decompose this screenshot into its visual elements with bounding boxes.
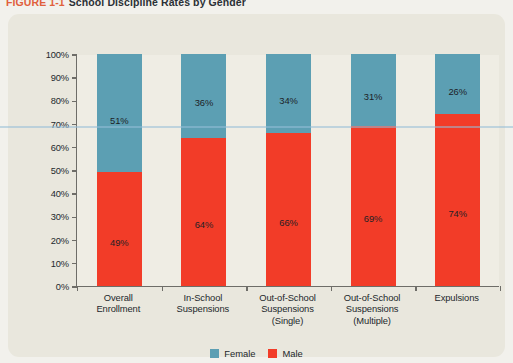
y-axis-tick-label: 10% <box>51 259 69 269</box>
x-axis-tick-mark <box>162 286 163 291</box>
bar-segment-female[interactable]: 31% <box>351 54 396 126</box>
y-axis-tick: 40% <box>51 188 77 200</box>
x-axis-tick-mark <box>500 286 501 291</box>
y-axis-tick-label: 70% <box>51 120 69 130</box>
y-axis-tick-mark <box>72 54 77 55</box>
bar-series-container: 49%51%64%36%66%34%69%31%74%26% <box>77 55 499 286</box>
bar-value-label: 49% <box>110 237 128 248</box>
bar-group[interactable]: 69%31% <box>351 55 396 286</box>
y-axis-tick: 80% <box>51 95 77 107</box>
y-axis-tick: 30% <box>51 211 77 223</box>
bar-value-label: 64% <box>195 219 213 230</box>
bar-value-label: 26% <box>448 86 466 97</box>
chart-panel: 49%51%64%36%66%34%69%31%74%26% 0%10%20%3… <box>8 14 505 357</box>
legend-label: Male <box>282 348 302 359</box>
x-axis-labels: OverallEnrollmentIn-SchoolSuspensionsOut… <box>76 292 499 337</box>
y-axis-tick-mark <box>72 147 77 148</box>
bar-value-label: 74% <box>448 208 466 219</box>
bar-group[interactable]: 49%51% <box>97 55 142 286</box>
x-axis-tick-mark <box>77 286 78 291</box>
x-axis-category-label: Expulsions <box>414 292 499 303</box>
x-axis-tick-mark <box>415 286 416 291</box>
legend-item[interactable]: Female <box>210 348 255 359</box>
bar-segment-female[interactable]: 26% <box>435 54 480 114</box>
y-axis-tick: 20% <box>51 235 77 247</box>
figure-number: FIGURE 1-1 <box>6 0 65 8</box>
y-axis-tick-mark <box>72 101 77 102</box>
y-axis-tick: 70% <box>51 119 77 131</box>
y-axis-tick-mark <box>72 240 77 241</box>
x-axis-tick-mark <box>331 286 332 291</box>
x-axis-category-label: In-SchoolSuspensions <box>161 292 246 315</box>
bar-group[interactable]: 66%34% <box>266 55 311 286</box>
x-axis-category-label: Out-of-SchoolSuspensions(Multiple) <box>330 292 415 326</box>
legend-swatch <box>268 349 277 358</box>
y-axis-tick-mark <box>72 193 77 194</box>
bar-segment-male[interactable]: 64% <box>181 138 226 286</box>
bar-value-label: 36% <box>195 97 213 108</box>
bar-group[interactable]: 74%26% <box>435 55 480 286</box>
bar-segment-male[interactable]: 69% <box>351 126 396 286</box>
y-axis-tick-label: 60% <box>51 143 69 153</box>
y-axis-tick-label: 30% <box>51 212 69 222</box>
legend-label: Female <box>224 348 255 359</box>
x-axis-category-label: OverallEnrollment <box>76 292 161 315</box>
y-axis-tick-mark <box>72 124 77 125</box>
bar-value-label: 34% <box>279 95 297 106</box>
y-axis-tick-mark <box>72 263 77 264</box>
bar-value-label: 66% <box>279 217 297 228</box>
y-axis-tick-mark <box>72 77 77 78</box>
bar-value-label: 31% <box>364 91 382 102</box>
y-axis-tick-label: 90% <box>51 73 69 83</box>
y-axis-tick-label: 80% <box>51 96 69 106</box>
y-axis-tick-label: 0% <box>56 282 69 292</box>
plot-area: 49%51%64%36%66%34%69%31%74%26% 0%10%20%3… <box>76 55 499 287</box>
bar-segment-female[interactable]: 36% <box>181 54 226 138</box>
y-axis-tick: 50% <box>51 165 77 177</box>
y-axis-tick: 90% <box>51 72 77 84</box>
y-axis-tick: 60% <box>51 142 77 154</box>
bar-segment-male[interactable]: 49% <box>97 172 142 286</box>
y-axis-tick-label: 100% <box>46 50 69 60</box>
legend-swatch <box>210 349 219 358</box>
y-axis-tick-label: 20% <box>51 236 69 246</box>
bar-segment-male[interactable]: 66% <box>266 133 311 286</box>
figure-title: School Discipline Rates by Gender <box>69 0 246 8</box>
y-axis-tick: 10% <box>51 258 77 270</box>
bar-segment-female[interactable]: 34% <box>266 54 311 133</box>
y-axis-tick-mark <box>72 217 77 218</box>
y-axis-tick: 100% <box>46 49 77 61</box>
bar-segment-female[interactable]: 51% <box>97 54 142 172</box>
bar-value-label: 69% <box>364 213 382 224</box>
x-axis-category-label: Out-of-SchoolSuspensions(Single) <box>245 292 330 326</box>
y-axis-tick-mark <box>72 170 77 171</box>
legend-item[interactable]: Male <box>268 348 302 359</box>
bar-segment-male[interactable]: 74% <box>435 114 480 286</box>
bar-group[interactable]: 64%36% <box>181 55 226 286</box>
chart-legend: FemaleMale <box>8 348 505 359</box>
x-axis-tick-mark <box>246 286 247 291</box>
y-axis-tick-label: 50% <box>51 166 69 176</box>
bar-value-label: 51% <box>110 115 128 126</box>
y-axis-tick: 0% <box>56 281 77 293</box>
y-axis-tick-label: 40% <box>51 189 69 199</box>
figure-caption: FIGURE 1-1School Discipline Rates by Gen… <box>6 0 246 9</box>
